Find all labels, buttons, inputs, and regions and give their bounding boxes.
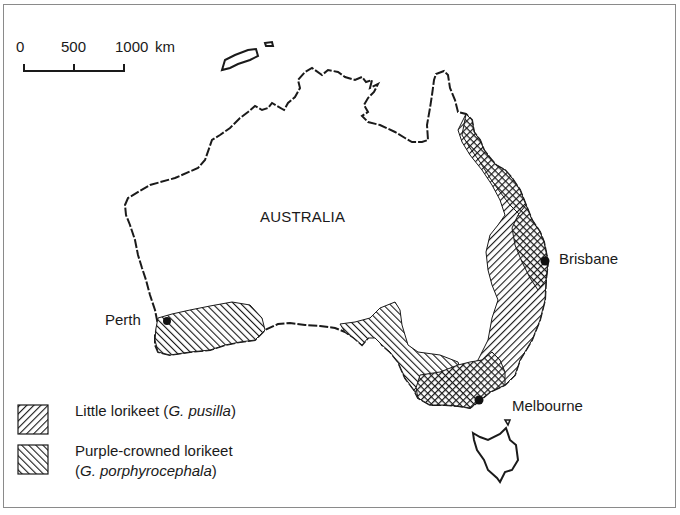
legend-swatch-purple-crowned-lorikeet bbox=[18, 445, 48, 474]
brisbane-marker bbox=[541, 257, 550, 266]
scale-tick-500: 500 bbox=[61, 38, 86, 55]
legend-swatch-little-lorikeet bbox=[18, 405, 48, 434]
tasmania-outline bbox=[473, 420, 518, 482]
city-label-perth: Perth bbox=[105, 311, 141, 328]
legend-label-purple-crowned-lorikeet: Purple-crowned lorikeet (G. porphyroceph… bbox=[75, 441, 233, 481]
scale-tick-0: 0 bbox=[16, 38, 24, 55]
scale-bar bbox=[24, 64, 124, 71]
northern-islands bbox=[222, 42, 273, 70]
melbourne-marker bbox=[475, 396, 484, 405]
scale-unit: km bbox=[155, 38, 175, 55]
legend-label-little-lorikeet: Little lorikeet (G. pusilla) bbox=[75, 401, 236, 421]
legend-swatches bbox=[18, 405, 48, 474]
perth-marker bbox=[163, 317, 171, 325]
city-label-brisbane: Brisbane bbox=[559, 250, 618, 267]
city-label-melbourne: Melbourne bbox=[512, 397, 583, 414]
country-label: AUSTRALIA bbox=[260, 208, 345, 225]
scale-tick-1000: 1000 bbox=[115, 38, 148, 55]
